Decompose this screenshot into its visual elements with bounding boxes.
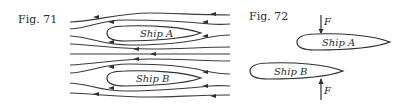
diagram-canvas: Fig. 71 Ship: [0, 0, 408, 105]
arrow-left-icon: [93, 92, 99, 96]
arrow-up-icon: [319, 78, 324, 84]
ship-a-label: Ship A: [140, 28, 173, 39]
fig72-force-b: F: [319, 78, 333, 100]
ship-a-label: Ship A: [322, 37, 355, 48]
arrow-left-icon: [210, 12, 216, 16]
fig71-ship-b: Ship B: [107, 71, 201, 86]
arrow-left-icon: [210, 94, 216, 98]
arrow-left-icon: [133, 47, 139, 51]
force-a-label: F: [323, 16, 332, 27]
arrow-left-icon: [133, 57, 139, 61]
streamline: [70, 93, 230, 97]
fig71-ship-a: Ship A: [107, 26, 201, 41]
arrow-left-icon: [202, 84, 208, 88]
force-b-label: F: [323, 85, 332, 96]
fig72-ship-b: Ship B: [250, 63, 343, 79]
arrow-left-icon: [150, 52, 156, 56]
arrow-left-icon: [93, 15, 99, 19]
arrow-left-icon: [202, 34, 208, 38]
fig72-caption: Fig. 72: [249, 10, 288, 23]
ship-b-label: Ship B: [274, 66, 307, 77]
ship-b-label: Ship B: [136, 73, 169, 84]
fig71-caption: Fig. 71: [18, 13, 57, 26]
fig72-force-a: F: [319, 15, 333, 34]
fig72-ship-a: Ship A: [297, 34, 390, 50]
